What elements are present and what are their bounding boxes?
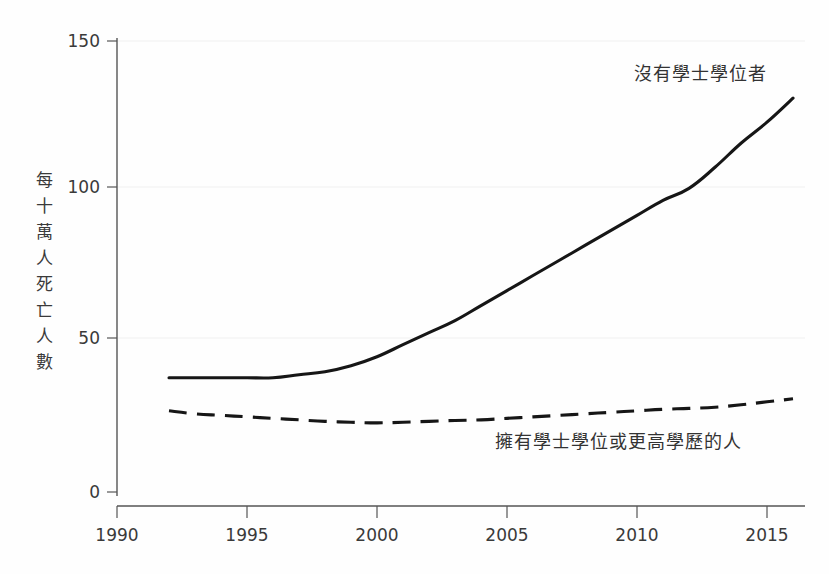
series-line-no-bachelors xyxy=(169,98,793,378)
line-chart: 150 100 50 0 每 十 萬 人 死 亡 人 數 1990 1995 2… xyxy=(0,0,829,574)
chart-page: 150 100 50 0 每 十 萬 人 死 亡 人 數 1990 1995 2… xyxy=(0,0,829,574)
x-tick-label-2005: 2005 xyxy=(485,525,528,545)
x-axis: 1990 1995 2000 2005 2010 2015 xyxy=(95,506,805,545)
x-tick-label-2015: 2015 xyxy=(745,525,788,545)
annotation-no-bachelors: 沒有學士學位者 xyxy=(634,63,767,84)
y-tick-label-150: 150 xyxy=(68,31,100,51)
y-axis-title-char-1: 十 xyxy=(36,196,53,216)
x-tick-label-2010: 2010 xyxy=(615,525,658,545)
y-tick-label-100: 100 xyxy=(68,177,100,197)
y-axis-title: 每 十 萬 人 死 亡 人 數 xyxy=(36,170,53,372)
x-tick-label-1990: 1990 xyxy=(95,525,138,545)
y-axis-title-char-4: 死 xyxy=(36,274,53,294)
y-tick-label-50: 50 xyxy=(78,328,100,348)
y-axis-title-char-6: 人 xyxy=(36,326,53,346)
y-tick-label-0: 0 xyxy=(89,482,100,502)
y-axis-title-char-2: 萬 xyxy=(36,222,53,242)
y-axis-title-char-5: 亡 xyxy=(36,300,53,320)
gridlines xyxy=(117,41,805,338)
y-axis: 150 100 50 0 xyxy=(68,31,117,502)
y-axis-title-char-0: 每 xyxy=(36,170,53,190)
y-axis-title-char-7: 數 xyxy=(36,352,53,372)
x-tick-label-1995: 1995 xyxy=(225,525,268,545)
annotation-bachelors-or-higher: 擁有學士學位或更高學歷的人 xyxy=(495,431,742,452)
y-axis-title-char-3: 人 xyxy=(36,248,53,268)
series-line-bachelors-or-higher xyxy=(169,399,793,423)
x-tick-label-2000: 2000 xyxy=(355,525,398,545)
